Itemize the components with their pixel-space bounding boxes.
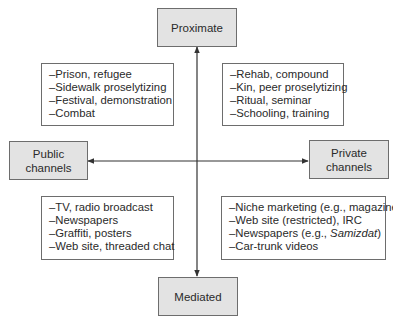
private-label-line2: channels	[326, 160, 372, 174]
list-item: –Sidewalk proselytizing	[49, 81, 173, 94]
list-item: –Web site, threaded chat	[49, 240, 173, 253]
list-item: –Prison, refugee	[49, 68, 173, 81]
list-item: –Niche marketing (e.g., magazine)	[229, 201, 385, 214]
list-item: –Rehab, compound	[230, 68, 343, 81]
public-label-line1: Public	[33, 147, 64, 161]
list-item: –Graffiti, posters	[49, 227, 173, 240]
list-item: –Web site (restricted), IRC	[229, 214, 385, 227]
list-item: –Festival, demonstration	[49, 94, 173, 107]
quadrant-public-mediated: –TV, radio broadcast –Newspapers –Graffi…	[41, 196, 174, 260]
list-item: –TV, radio broadcast	[49, 201, 173, 214]
mediated-box: Mediated	[158, 277, 238, 316]
list-item: –Ritual, seminar	[230, 94, 343, 107]
mediated-label: Mediated	[174, 290, 221, 304]
list-item: –Schooling, training	[230, 107, 343, 120]
proximate-label: Proximate	[171, 21, 223, 35]
list-item: –Combat	[49, 107, 173, 120]
list-item-samizdat: –Newspapers (e.g., Samizdat)	[229, 227, 385, 240]
quadrant-public-proximate: –Prison, refugee –Sidewalk proselytizing…	[41, 63, 174, 126]
private-channels-box: Private channels	[309, 140, 389, 179]
list-item: –Kin, peer proselytizing	[230, 81, 343, 94]
public-label-line2: channels	[25, 161, 71, 175]
quadrant-private-mediated: –Niche marketing (e.g., magazine) –Web s…	[221, 196, 386, 260]
list-item: –Newspapers	[49, 214, 173, 227]
public-channels-box: Public channels	[9, 141, 88, 180]
private-label-line1: Private	[331, 146, 367, 160]
list-item: –Car-trunk videos	[229, 240, 385, 253]
proximate-box: Proximate	[157, 8, 237, 47]
quadrant-private-proximate: –Rehab, compound –Kin, peer proselytizin…	[222, 63, 344, 126]
